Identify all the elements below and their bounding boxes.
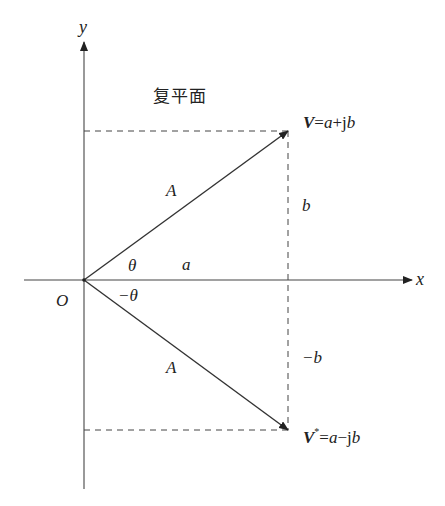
plane-title: 复平面 (153, 88, 207, 105)
v-eq: = (314, 113, 324, 132)
diagram-graphics (0, 0, 445, 506)
imag-part-label-lower: −b (302, 349, 322, 366)
vc-b: b (352, 428, 361, 447)
vc-symbol: V (303, 428, 314, 447)
angle-label-upper: θ (128, 257, 136, 274)
v-symbol: V (303, 113, 314, 132)
imag-part-label-upper: b (302, 197, 311, 214)
vector-v-conjugate (84, 280, 288, 430)
magnitude-label-upper: A (166, 182, 176, 199)
x-axis-label: x (416, 270, 424, 288)
magnitude-label-lower: A (166, 359, 176, 376)
y-axis-label: y (79, 18, 87, 36)
vc-eq: = (319, 428, 329, 447)
real-part-label: a (182, 256, 191, 273)
origin-label: O (56, 292, 68, 309)
origin-point (82, 278, 86, 282)
v-op: + (332, 113, 342, 132)
complex-plane-diagram: y x O 复平面 V=a+jb V*=a−jb A A θ −θ a b −b (0, 0, 445, 506)
angle-label-lower: −θ (118, 287, 138, 304)
vector-v-conjugate-label: V*=a−jb (303, 427, 360, 446)
v-b: b (347, 113, 356, 132)
vc-op: − (337, 428, 347, 447)
vector-v-label: V=a+jb (303, 114, 355, 131)
